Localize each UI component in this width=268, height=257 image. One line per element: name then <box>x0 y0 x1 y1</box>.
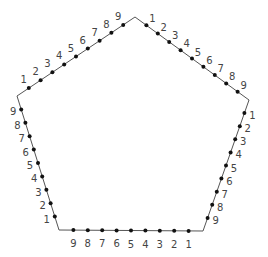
division-label: 2 <box>39 200 45 211</box>
pentagon-outline <box>17 17 249 231</box>
bottom-edge: 123456789 <box>70 228 192 250</box>
division-point <box>233 137 237 141</box>
division-point <box>44 188 48 192</box>
division-label: 1 <box>21 74 27 85</box>
division-point <box>215 190 219 194</box>
top-right-edge: 123456789 <box>144 13 246 93</box>
division-point <box>115 228 119 232</box>
division-label: 6 <box>23 147 29 158</box>
division-label: 3 <box>44 58 50 69</box>
right-edge: 123456789 <box>206 110 256 226</box>
division-point <box>50 70 54 74</box>
division-label: 7 <box>222 189 228 200</box>
division-point <box>62 62 66 66</box>
edge-points-layer: 1234567891234567891234567891234567891234… <box>10 11 256 250</box>
division-label: 2 <box>32 66 38 77</box>
division-point <box>167 40 171 44</box>
division-point <box>28 134 32 138</box>
division-point <box>206 216 210 220</box>
division-point <box>40 174 44 178</box>
division-label: 7 <box>91 27 97 38</box>
division-point <box>53 215 57 219</box>
division-label: 5 <box>231 163 237 174</box>
division-label: 4 <box>56 50 62 61</box>
division-label: 2 <box>245 123 251 134</box>
division-point <box>71 228 75 232</box>
division-label: 6 <box>80 35 86 46</box>
division-point <box>27 86 31 90</box>
division-label: 7 <box>18 133 24 144</box>
division-label: 6 <box>206 55 212 66</box>
division-label: 1 <box>149 13 155 24</box>
division-label: 3 <box>172 30 178 41</box>
division-point <box>158 229 162 233</box>
division-label: 1 <box>185 239 191 250</box>
division-point <box>201 65 205 69</box>
division-point <box>49 201 53 205</box>
division-point <box>224 81 228 85</box>
division-point <box>219 177 223 181</box>
division-point <box>229 150 233 154</box>
division-label: 8 <box>14 120 20 131</box>
division-point <box>129 229 133 233</box>
division-label: 3 <box>35 187 41 198</box>
division-label: 7 <box>99 238 105 249</box>
division-point <box>109 31 113 35</box>
division-point <box>144 23 148 27</box>
division-point <box>210 203 214 207</box>
division-point <box>172 229 176 233</box>
division-point <box>121 23 125 27</box>
division-point <box>179 48 183 52</box>
division-label: 9 <box>10 106 16 117</box>
division-point <box>190 57 194 61</box>
top-left-edge: 123456789 <box>21 11 126 90</box>
division-point <box>19 107 23 111</box>
division-label: 2 <box>171 239 177 250</box>
division-point <box>242 111 246 115</box>
division-label: 9 <box>212 215 218 226</box>
division-label: 3 <box>240 136 246 147</box>
division-point <box>32 148 36 152</box>
division-point <box>224 164 228 168</box>
division-label: 7 <box>218 63 224 74</box>
left-edge: 123456789 <box>10 106 57 224</box>
pentagon-diagram: 1234567891234567891234567891234567891234… <box>0 0 268 257</box>
division-point <box>143 229 147 233</box>
division-point <box>100 228 104 232</box>
division-point <box>86 228 90 232</box>
division-label: 2 <box>161 22 167 33</box>
division-label: 4 <box>142 239 148 250</box>
division-point <box>23 121 27 125</box>
division-point <box>39 78 43 82</box>
division-point <box>156 32 160 36</box>
division-point <box>36 161 40 165</box>
division-point <box>187 229 191 233</box>
division-label: 1 <box>44 214 50 225</box>
division-point <box>238 124 242 128</box>
division-label: 8 <box>85 238 91 249</box>
division-point <box>74 55 78 59</box>
division-label: 8 <box>103 19 109 30</box>
division-label: 5 <box>195 47 201 58</box>
division-label: 5 <box>27 160 33 171</box>
division-label: 5 <box>128 239 134 250</box>
division-label: 9 <box>70 238 76 249</box>
division-label: 1 <box>249 110 255 121</box>
division-point <box>236 90 240 94</box>
division-label: 6 <box>113 238 119 249</box>
division-label: 6 <box>226 176 232 187</box>
division-point <box>86 47 90 51</box>
division-point <box>98 39 102 43</box>
division-label: 4 <box>235 149 241 160</box>
division-label: 9 <box>115 11 121 22</box>
division-label: 4 <box>31 173 37 184</box>
division-label: 4 <box>183 38 189 49</box>
division-label: 5 <box>68 43 74 54</box>
division-label: 3 <box>157 239 163 250</box>
division-label: 8 <box>229 71 235 82</box>
division-point <box>213 73 217 77</box>
division-label: 9 <box>240 80 246 91</box>
division-label: 8 <box>217 202 223 213</box>
